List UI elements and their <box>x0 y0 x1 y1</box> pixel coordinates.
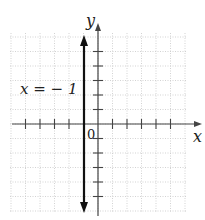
y-axis-label: y <box>85 11 96 30</box>
line-arrow-down-icon <box>80 202 88 213</box>
x-axis-label: x <box>193 127 202 146</box>
origin-label: 0 <box>87 127 95 142</box>
line-arrow-up-icon <box>80 35 88 46</box>
equation-label: x = − 1 <box>20 80 77 98</box>
x-axis <box>12 119 202 129</box>
y-axis-arrow-icon <box>95 23 101 31</box>
y-axis <box>93 23 103 216</box>
coordinate-plane-figure: y x 0 x = − 1 <box>0 0 205 220</box>
